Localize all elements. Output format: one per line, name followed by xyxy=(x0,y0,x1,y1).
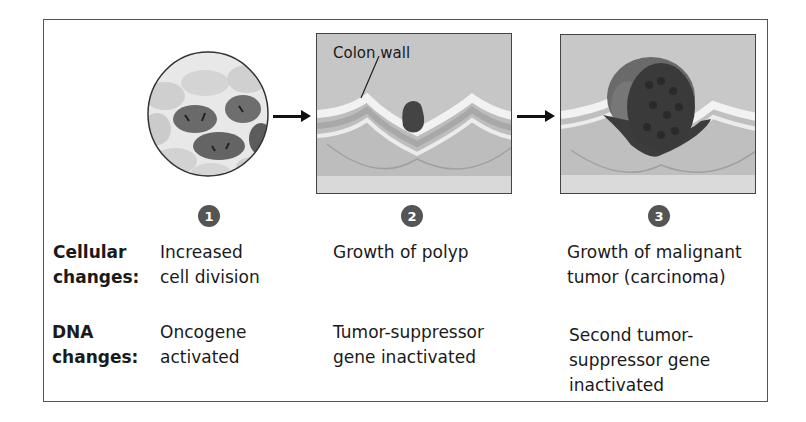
step-2-badge: 2 xyxy=(401,205,423,227)
stage-1-cellular-text: Increased cell division xyxy=(160,240,260,290)
step-1-badge: 1 xyxy=(198,205,220,227)
arrow-right-icon xyxy=(273,115,303,118)
step-3-badge: 3 xyxy=(648,205,670,227)
stage-1-dna-text: Oncogene activated xyxy=(160,320,246,370)
dna-changes-label: DNA changes: xyxy=(52,320,138,370)
tumor-panel-illustration xyxy=(560,34,756,194)
arrow-right-icon xyxy=(517,115,547,118)
cells-circle-illustration xyxy=(147,51,269,177)
cellular-changes-label: Cellular changes: xyxy=(53,240,139,290)
stage-2-dna-text: Tumor-suppressor gene inactivated xyxy=(333,320,484,370)
stage-3-cellular-text: Growth of malignant tumor (carcinoma) xyxy=(567,240,742,290)
stage-2-cellular-text: Growth of polyp xyxy=(333,240,469,265)
stage-3-dna-text: Second tumor- suppressor gene inactivate… xyxy=(569,323,710,398)
polyp-panel-illustration: Colon wall xyxy=(316,33,512,194)
colon-wall-callout: Colon wall xyxy=(333,44,410,62)
